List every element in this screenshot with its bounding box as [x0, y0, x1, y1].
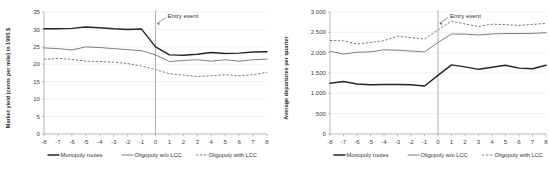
legend-label-oligopoly-w-o-lcc: Oligopoly w/o LCC — [420, 152, 467, 158]
l-xtick: 8 — [265, 138, 269, 145]
l-xtick: -5 — [83, 138, 89, 145]
l-xtick: 7 — [251, 138, 255, 145]
l-ytick: 5 — [37, 113, 41, 120]
r-xtick: -5 — [367, 138, 373, 145]
l-ytick: 10 — [33, 95, 40, 102]
r-xtick: -3 — [394, 138, 400, 145]
left-legend: Monopoly routesOligopoly w/o LCCOligopol… — [48, 152, 257, 158]
l-xtick: -8 — [41, 138, 47, 145]
l-xtick: -7 — [55, 138, 61, 145]
right-axes — [328, 12, 546, 136]
l-ytick: 20 — [33, 60, 40, 67]
r-ytick: 1.000 — [310, 89, 326, 96]
r-xtick: 5 — [503, 138, 507, 145]
r-xtick: -4 — [381, 138, 387, 145]
left-axes — [42, 12, 267, 136]
right-ytick-labels: 05001.0001.5002.0002.5003.000 — [310, 8, 326, 137]
r-ytick: 0 — [322, 130, 326, 137]
l-xtick: 1 — [168, 138, 172, 145]
l-xtick: -6 — [69, 138, 75, 145]
legend-label-monopoly-routes: Monopoly routes — [61, 152, 103, 158]
legend-label-monopoly-routes: Monopoly routes — [346, 152, 388, 158]
r-entry-event-arrow-icon — [439, 18, 447, 24]
r-xtick: 7 — [530, 138, 534, 145]
r-ytick: 1.500 — [310, 69, 326, 76]
l-xtick: 6 — [237, 138, 241, 145]
right-chart-svg: 05001.0001.5002.0002.5003.000 -8-7-6-5-4… — [275, 0, 549, 173]
l-ytick: 15 — [33, 78, 40, 85]
r-xtick: 8 — [544, 138, 548, 145]
r-ytick: 2.500 — [310, 28, 326, 35]
l-xtick: 5 — [223, 138, 227, 145]
l-xtick: 0 — [154, 138, 158, 145]
r-xtick: 4 — [490, 138, 494, 145]
left-entry-event-label: Entry event — [168, 12, 199, 19]
l-xtick: 4 — [210, 138, 214, 145]
l-ytick: 0 — [37, 130, 41, 137]
r-xtick: -6 — [354, 138, 360, 145]
legend-label-oligopoly-with-lcc: Oligopoly with LCC — [209, 152, 257, 158]
r-xtick: -8 — [327, 138, 333, 145]
l-entry-event-arrow-icon — [157, 18, 165, 24]
l-ytick: 30 — [33, 26, 40, 33]
right-entry-event-label: Entry event — [450, 12, 481, 19]
l-xtick: -3 — [111, 138, 117, 145]
r-ytick: 500 — [315, 110, 326, 117]
l-ytick: 35 — [33, 8, 40, 15]
r-xtick: -2 — [408, 138, 414, 145]
l-ytick: 25 — [33, 43, 40, 50]
right-xtick-labels: -8-7-6-5-4-3-2-1012345678 — [327, 138, 548, 145]
left-xtick-labels: -8-7-6-5-4-3-2-1012345678 — [41, 138, 269, 145]
right-y-axis-title: Average departures per quarter — [283, 35, 289, 119]
r-ytick: 2.000 — [310, 49, 326, 56]
r-xtick: 2 — [463, 138, 467, 145]
chart-panel-market-yield: 05101520253035 -8-7-6-5-4-3-2-1012345678… — [0, 0, 275, 173]
r-ytick: 3.000 — [310, 8, 326, 15]
r-xtick: 3 — [476, 138, 480, 145]
legend-label-oligopoly-with-lcc: Oligopoly with LCC — [494, 152, 542, 158]
left-chart-svg: 05101520253035 -8-7-6-5-4-3-2-1012345678… — [0, 0, 275, 173]
left-ytick-labels: 05101520253035 — [33, 8, 40, 137]
r-xtick: -7 — [340, 138, 346, 145]
r-xtick: 1 — [449, 138, 453, 145]
l-xtick: -1 — [139, 138, 145, 145]
r-xtick: 6 — [517, 138, 521, 145]
l-xtick: -4 — [97, 138, 103, 145]
legend-label-oligopoly-w-o-lcc: Oligopoly w/o LCC — [135, 152, 182, 158]
l-xtick: 3 — [196, 138, 200, 145]
right-legend: Monopoly routesOligopoly w/o LCCOligopol… — [334, 152, 543, 158]
l-xtick: 2 — [182, 138, 186, 145]
figure-two-panel-line-charts: 05101520253035 -8-7-6-5-4-3-2-1012345678… — [0, 0, 549, 173]
l-xtick: -2 — [125, 138, 131, 145]
left-y-axis-title: Market yield (cents per mile) in 1995 $ — [5, 27, 11, 128]
chart-panel-average-departures: 05001.0001.5002.0002.5003.000 -8-7-6-5-4… — [275, 0, 549, 173]
r-xtick: -1 — [421, 138, 427, 145]
r-xtick: 0 — [436, 138, 440, 145]
